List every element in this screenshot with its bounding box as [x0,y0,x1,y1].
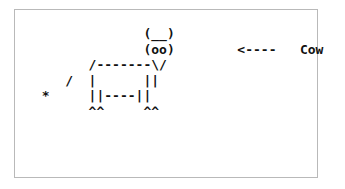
ascii-art-line-back: /-------\/ [26,57,323,73]
ascii-art-line-head-face-and-label: (oo) <---- Cow [26,42,323,58]
ascii-art-line-tail-and-legs: / | || [26,73,323,89]
ascii-art-line-hooves: ^^ ^^ [26,104,323,120]
ascii-art-block: (__) (oo) <---- Cow /-------\/ / | || * … [26,26,323,119]
ascii-art-line-head-top: (__) [26,26,323,42]
screenshot-canvas: (__) (oo) <---- Cow /-------\/ / | || * … [0,0,345,189]
ascii-art-line-belly-and-star: * ||----|| [26,88,323,104]
